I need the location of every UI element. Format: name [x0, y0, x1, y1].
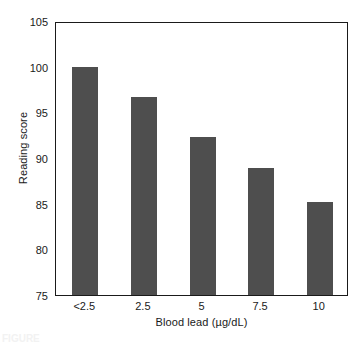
x-tick-label: 2.5	[135, 300, 150, 312]
y-tick-label: 95	[22, 107, 48, 119]
x-tick-label: 5	[198, 300, 204, 312]
x-axis-tick-labels: <2.52.557.510	[55, 300, 348, 316]
x-tick-label: 10	[313, 300, 325, 312]
bars-layer	[56, 23, 347, 295]
bar	[72, 67, 98, 295]
y-tick-label: 105	[22, 16, 48, 28]
bar	[131, 97, 157, 295]
y-tick-label: 85	[22, 199, 48, 211]
x-tick-label: 7.5	[252, 300, 267, 312]
plot-area	[55, 22, 348, 296]
y-tick-label: 75	[22, 290, 48, 302]
bar	[307, 202, 333, 295]
y-tick-label: 90	[22, 153, 48, 165]
x-tick-label: <2.5	[73, 300, 95, 312]
bar	[248, 168, 274, 295]
y-tick-label: 100	[22, 62, 48, 74]
figure-bar-chart: Reading score 7580859095100105 <2.52.557…	[0, 0, 359, 344]
x-axis-label: Blood lead (µg/dL)	[55, 316, 348, 328]
y-tick-label: 80	[22, 244, 48, 256]
y-axis-tick-labels: 7580859095100105	[20, 0, 48, 344]
bar	[190, 137, 216, 295]
caption-remnant: FIGURE	[2, 334, 80, 343]
